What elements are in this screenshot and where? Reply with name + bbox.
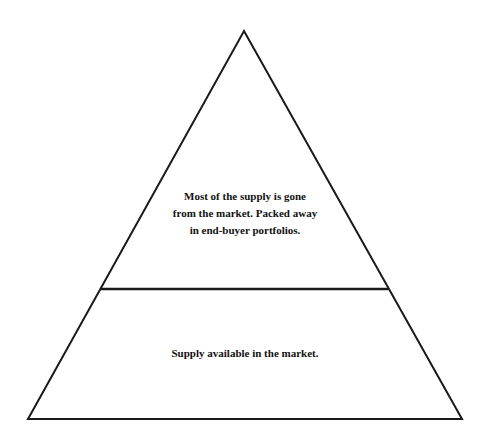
- bottom-layer-line-1: Supply available in the market.: [140, 345, 350, 362]
- top-layer-line-3: in end-buyer portfolios.: [140, 222, 350, 239]
- bottom-layer-label: Supply available in the market.: [140, 345, 350, 362]
- top-layer-line-2: from the market. Packed away: [140, 205, 350, 222]
- top-layer-line-1: Most of the supply is gone: [140, 188, 350, 205]
- top-layer-label: Most of the supply is gone from the mark…: [140, 188, 350, 239]
